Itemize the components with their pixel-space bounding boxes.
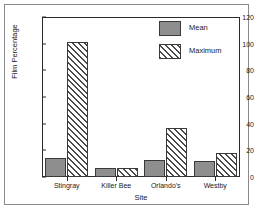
- bar-killer-bee-maximum: [117, 168, 138, 177]
- y-tick-mark: [42, 17, 46, 18]
- x-tick-mark: [116, 177, 117, 181]
- y-tick-mark: [42, 150, 46, 151]
- legend-label: Maximum: [189, 47, 222, 55]
- x-tick-label: Westby: [204, 182, 227, 189]
- y-tick-mark: [42, 43, 46, 44]
- x-tick-label: Orlando's: [151, 182, 181, 189]
- y-tick-mark: [42, 70, 46, 71]
- x-axis-title: Site: [42, 193, 240, 202]
- y-tick-label: 60: [246, 94, 254, 101]
- x-tick-label: Killer Bee: [101, 182, 131, 189]
- bar-orlando-s-maximum: [166, 128, 187, 177]
- legend-item-mean[interactable]: Mean: [159, 21, 237, 44]
- bar-orlando-s-mean: [144, 160, 165, 177]
- x-tick-mark: [166, 177, 167, 181]
- bar-killer-bee-mean: [95, 168, 116, 177]
- chart-legend: MeanMaximum: [159, 21, 237, 67]
- y-tick-label: 120: [242, 14, 254, 21]
- chart-figure: Film Percentage StingrayKiller BeeOrland…: [0, 0, 254, 210]
- y-tick-label: 20: [246, 147, 254, 154]
- legend-item-maximum[interactable]: Maximum: [159, 44, 237, 67]
- bar-stingray-maximum: [67, 42, 88, 177]
- y-axis-title: Film Percentage: [10, 0, 19, 104]
- y-axis-ticks: [0, 0, 38, 160]
- x-tick-mark: [67, 177, 68, 181]
- x-tick-mark: [215, 177, 216, 181]
- bar-westby-maximum: [216, 153, 237, 177]
- y-tick-label: 0: [250, 174, 254, 181]
- y-tick-label: 80: [246, 67, 254, 74]
- y-tick-label: 100: [242, 40, 254, 47]
- legend-swatch-maximum-icon: [159, 44, 181, 59]
- bar-stingray-mean: [45, 158, 66, 177]
- bar-westby-mean: [194, 161, 215, 177]
- legend-label: Mean: [189, 24, 208, 32]
- x-tick-label: Stingray: [54, 182, 80, 189]
- y-tick-mark: [42, 123, 46, 124]
- y-tick-label: 40: [246, 120, 254, 127]
- legend-swatch-mean-icon: [159, 21, 181, 36]
- y-tick-mark: [42, 177, 46, 178]
- y-tick-mark: [42, 97, 46, 98]
